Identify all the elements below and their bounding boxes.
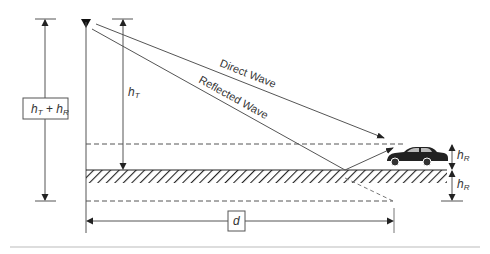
arrow-up-icon — [449, 170, 456, 177]
arrow-up-icon — [42, 19, 49, 26]
arrow-down-icon — [120, 163, 127, 170]
arrow-up-icon — [120, 19, 127, 26]
total-height-dimension: hT + hR — [23, 19, 69, 201]
arrow-left-icon — [86, 218, 93, 225]
receiver-height-label-below: hR — [457, 177, 470, 192]
distance-label: d — [233, 214, 240, 228]
arrow-down-icon — [42, 194, 49, 201]
transmitter-height-label: hT — [128, 85, 141, 100]
arrow-down-icon — [449, 163, 456, 170]
transmitter-height-dimension: hT — [112, 19, 141, 170]
reflected-wave-incident-ray — [92, 29, 345, 170]
two-ray-diagram: hT + hR hT Direct Wave Reflected Wave — [0, 0, 490, 254]
arrow-down-icon — [449, 194, 456, 201]
direct-wave-ray — [96, 24, 384, 138]
distance-dimension: d — [86, 208, 394, 233]
receiver-height-label-above: hR — [457, 148, 470, 163]
direct-wave-label: Direct Wave — [218, 57, 278, 90]
ground — [86, 170, 447, 183]
reflected-wave-ray — [345, 148, 393, 170]
car-icon — [387, 147, 448, 166]
arrow-up-icon — [449, 144, 456, 151]
arrow-right-icon — [387, 218, 394, 225]
